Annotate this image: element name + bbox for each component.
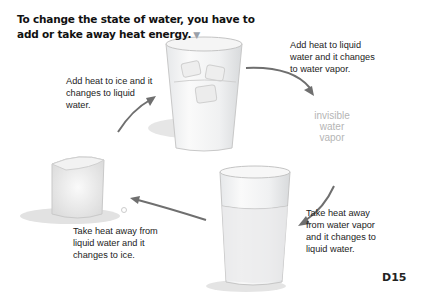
label-ice-to-liquid: Add heat to ice and it changes to liquid… — [66, 75, 158, 111]
title-text: To change the state of water, you have t… — [17, 13, 255, 40]
ice-cube-icon — [20, 157, 127, 224]
glass-with-ice-icon — [148, 37, 242, 151]
triangle-marker-icon: ▼ — [193, 30, 200, 40]
page-title: To change the state of water, you have t… — [17, 12, 257, 43]
arrow-liquid-to-ice — [138, 200, 206, 220]
label-liquid-to-vapor: Add heat to liquid water and it changes … — [290, 39, 382, 75]
label-vapor-to-liquid: Take heat away from water vapor and it c… — [306, 207, 386, 255]
label-liquid-to-ice: Take heat away from liquid water and it … — [73, 225, 165, 261]
label-invisible-vapor: invisible water vapor — [308, 110, 356, 143]
glass-of-water-icon — [206, 166, 290, 292]
page-number: D15 — [382, 271, 406, 284]
